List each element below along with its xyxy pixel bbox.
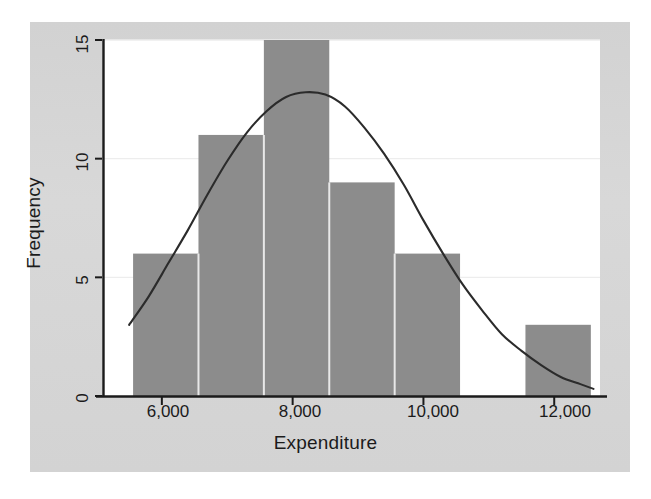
x-tick-label: 12,000 [539,402,591,422]
histogram-plot [0,0,651,499]
figure-container: 6,000 8,000 10,000 12,000 0 5 10 15 Expe… [0,0,651,499]
y-tick-label: 10 [73,141,93,183]
histogram-bar [198,135,263,396]
x-axis-ticks [162,397,554,405]
y-axis-ticks [95,40,102,396]
x-tick-label: 10,000 [407,402,459,422]
histogram-bar [395,254,460,396]
y-tick-label: 5 [73,265,93,295]
x-axis-title: Expenditure [0,432,651,454]
y-axis-title: Frequency [23,153,45,293]
y-tick-label: 0 [73,383,93,413]
x-tick-label: 6,000 [147,402,190,422]
x-tick-label: 8,000 [279,402,322,422]
y-tick-label: 15 [73,23,93,65]
histogram-bar [133,254,198,396]
histogram-bar [329,182,394,396]
